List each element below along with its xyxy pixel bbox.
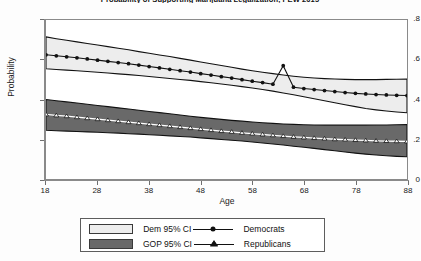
filled-circle-marker (189, 70, 193, 74)
x-tick (45, 181, 46, 185)
chart-title: Probability of Supporting Marijuana Lega… (0, 0, 420, 3)
x-tick-label: 38 (136, 186, 162, 195)
x-tick (356, 181, 357, 185)
filled-circle-marker (261, 81, 265, 85)
filled-circle-marker (323, 89, 327, 93)
x-tick (252, 181, 253, 185)
x-tick-label: 78 (343, 186, 369, 195)
x-tick-label: 28 (84, 186, 110, 195)
x-axis-line (45, 180, 409, 181)
filled-circle-marker (374, 93, 378, 97)
filled-circle-marker (354, 91, 358, 95)
legend-label-democrats: Democrats (243, 224, 324, 234)
filled-circle-marker (209, 73, 213, 77)
filled-circle-marker (364, 92, 368, 96)
filled-circle-marker (75, 56, 79, 60)
hollow-triangle-icon (211, 241, 217, 246)
legend-label-republicans: Republicans (244, 239, 324, 249)
x-axis-title: Age (45, 196, 409, 206)
filled-circle-marker (96, 58, 100, 62)
filled-circle-marker (333, 90, 337, 94)
y-axis-title: Probability (6, 40, 16, 114)
filled-circle-marker (302, 87, 306, 91)
legend-swatch-dem-ci (89, 224, 133, 234)
filled-circle-marker (147, 65, 151, 69)
filled-circle-marker (292, 85, 296, 89)
filled-circle-marker (54, 54, 58, 58)
chart-legend: Dem 95% CI Democrats GOP 95% CI Republic… (80, 218, 325, 252)
filled-circle-marker (85, 57, 89, 61)
filled-circle-marker (250, 79, 254, 83)
filled-circle-marker (178, 69, 182, 73)
x-tick-label: 68 (291, 186, 317, 195)
legend-key-republicans (192, 238, 236, 250)
filled-circle-marker (168, 67, 172, 71)
filled-circle-marker (230, 76, 234, 80)
x-tick (201, 181, 202, 185)
legend-key-democrats (191, 223, 235, 235)
filled-circle-marker (65, 55, 69, 59)
confidence-band (46, 100, 407, 157)
legend-row: Dem 95% CI Democrats (81, 221, 324, 236)
confidence-band (46, 37, 407, 113)
y-tick (40, 140, 44, 141)
x-tick (97, 181, 98, 185)
legend-swatch-gop-ci (89, 239, 133, 249)
y-tick (40, 100, 44, 101)
filled-circle-marker (219, 75, 223, 79)
y-tick (40, 59, 44, 60)
filled-circle-marker (127, 62, 131, 66)
filled-circle-marker (395, 93, 399, 97)
filled-circle-marker (158, 66, 162, 70)
filled-circle-marker (281, 64, 285, 68)
legend-label-dem-ci: Dem 95% CI (143, 224, 191, 234)
y-tick (40, 180, 44, 181)
filled-circle-marker (343, 91, 347, 95)
filled-circle-icon (211, 226, 216, 231)
filled-circle-marker (271, 82, 275, 86)
legend-label-gop-ci: GOP 95% CI (143, 239, 192, 249)
filled-circle-marker (312, 88, 316, 92)
plot-area (45, 19, 408, 180)
filled-circle-marker (137, 63, 141, 67)
filled-circle-marker (384, 93, 388, 97)
x-tick (149, 181, 150, 185)
x-tick-label: 88 (395, 186, 421, 195)
x-tick (408, 181, 409, 185)
x-tick (304, 181, 305, 185)
filled-circle-marker (116, 61, 120, 65)
legend-row: GOP 95% CI Republicans (81, 236, 324, 251)
y-tick (40, 19, 44, 20)
filled-circle-marker (240, 78, 244, 82)
x-tick-label: 58 (239, 186, 265, 195)
filled-circle-marker (199, 72, 203, 76)
x-tick-label: 18 (32, 186, 58, 195)
x-tick-label: 48 (188, 186, 214, 195)
plot-svg (46, 20, 407, 179)
filled-circle-marker (106, 59, 110, 63)
